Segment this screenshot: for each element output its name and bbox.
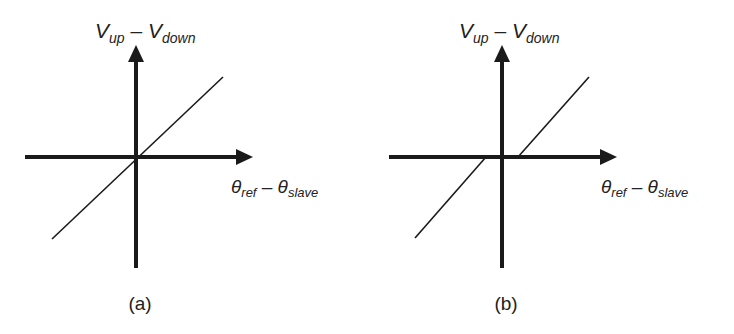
diagram-canvas: Vup – Vdown θref – θslave (a) Vup – Vdow… [0, 0, 734, 334]
x-axis-arrow-icon [600, 149, 617, 165]
y-axis-arrow-icon [494, 45, 510, 62]
y-axis-label: Vup – Vdown [459, 19, 560, 46]
x-axis-arrow-icon [236, 149, 253, 165]
transfer-line-positive [518, 77, 589, 157]
panel-a: Vup – Vdown θref – θslave (a) [25, 19, 318, 314]
transfer-line-negative [415, 157, 486, 238]
y-axis-arrow-icon [128, 45, 144, 62]
panel-caption: (a) [128, 293, 151, 314]
figure: Vup – Vdown θref – θslave (a) Vup – Vdow… [0, 0, 734, 334]
panel-caption: (b) [494, 293, 517, 314]
x-axis-label: θref – θslave [231, 176, 318, 200]
x-axis-label: θref – θslave [601, 176, 688, 200]
y-axis-label: Vup – Vdown [95, 19, 196, 46]
panel-b: Vup – Vdown θref – θslave (b) [389, 19, 688, 314]
